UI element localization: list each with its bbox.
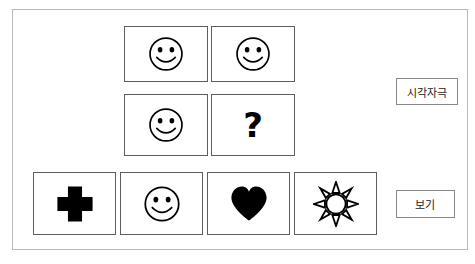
option-cell-1[interactable] — [33, 172, 116, 235]
smiley-face-icon — [145, 33, 187, 75]
sun-icon — [313, 181, 359, 227]
option-cell-3[interactable] — [207, 172, 290, 235]
smiley-face-icon — [145, 104, 187, 146]
matrix-cell-r1c2[interactable] — [211, 26, 295, 82]
cross-icon — [53, 182, 97, 226]
label-visual-stimulus: 시각자극 — [396, 78, 458, 105]
question-mark-icon: ? — [243, 108, 263, 142]
matrix-cell-r1c1[interactable] — [124, 26, 208, 82]
option-cell-4[interactable] — [294, 172, 377, 235]
smiley-face-icon — [140, 182, 184, 226]
label-answer-options: 보기 — [396, 190, 455, 218]
matrix-cell-r2c1[interactable] — [124, 94, 208, 156]
heart-icon — [227, 182, 271, 226]
option-cell-2[interactable] — [120, 172, 203, 235]
smiley-face-icon — [232, 33, 274, 75]
matrix-cell-r2c2-missing[interactable]: ? — [211, 94, 295, 156]
slide-canvas: ? — [0, 0, 475, 264]
